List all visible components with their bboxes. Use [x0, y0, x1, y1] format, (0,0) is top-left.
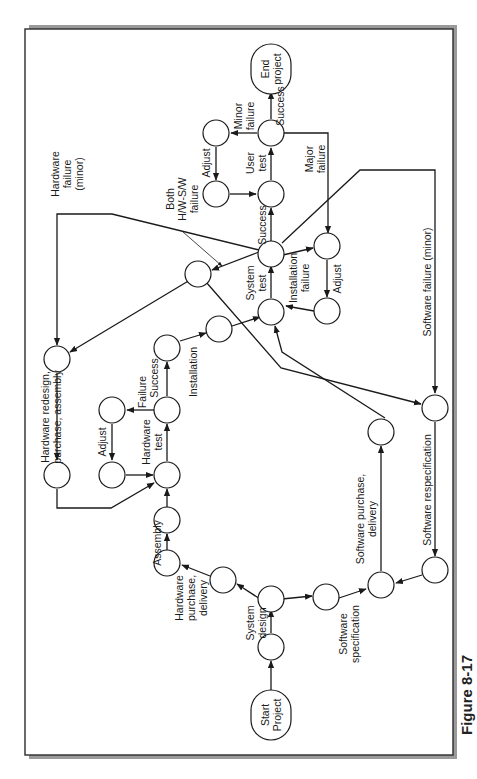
- system-success-label: Success: [256, 205, 268, 245]
- node-hw-test-result: [154, 397, 180, 423]
- network-diagram: StartProject Endproject Systemdesign Har…: [0, 0, 477, 779]
- user-adjust-label: Adjust: [200, 148, 212, 177]
- sw-spec-label: Softwarespecification: [337, 605, 361, 663]
- user-test-label: Usertest: [244, 151, 268, 174]
- installation-label: Installation: [187, 347, 199, 397]
- node-hw-purchase: [210, 567, 236, 593]
- assembly-label: Assembly: [151, 519, 163, 565]
- install-adjust-label: Adjust: [331, 264, 343, 293]
- figure-caption: Figure 8-17: [458, 655, 475, 735]
- node-install-adjust-start: [314, 233, 340, 259]
- node-sw-respec-start: [422, 395, 448, 421]
- node-sw-respec-end: [422, 557, 448, 583]
- user-success-label: Success: [274, 86, 286, 126]
- node-hw-test: [154, 462, 180, 488]
- node-installed: [206, 316, 232, 342]
- hw-failure-label: Failure: [136, 376, 148, 408]
- node-sw-delivered: [368, 419, 394, 445]
- figure-frame: [25, 25, 457, 759]
- node-user-test: [258, 181, 284, 207]
- node-hw-adjust-end: [99, 462, 125, 488]
- sw-failure-minor-label: Software failure (minor): [421, 227, 433, 336]
- hw-success-label: Success: [148, 358, 160, 398]
- hw-adjust-label: Adjust: [96, 427, 108, 456]
- node-hw-adjust-start: [99, 397, 125, 423]
- hw-redesign-label: Hardware redesign,purchase, assembly: [39, 370, 63, 464]
- node-hw-redesign-end: [44, 462, 70, 488]
- node-user-adjust-end: [203, 181, 229, 207]
- figure-8-17: StartProject Endproject Systemdesign Har…: [0, 0, 477, 779]
- node-hw-redesign-start: [44, 346, 70, 372]
- major-failure-label: Majorfailure: [303, 145, 327, 174]
- hw-purchase-label: Hardwarepurchase,delivery: [173, 575, 209, 621]
- node-system-test: [258, 299, 284, 325]
- minor-failure-label: Minorfailure: [232, 102, 256, 131]
- node-both-failure: [185, 261, 211, 287]
- node-user-adjust-start: [203, 120, 229, 146]
- node-sw-purchase: [368, 572, 394, 598]
- node-install-adjust-end: [314, 298, 340, 324]
- node-sw-spec: [313, 584, 339, 610]
- node-hw-success: [154, 335, 180, 361]
- system-design-label: Systemdesign: [244, 605, 268, 640]
- sw-respec-label: Software respecification: [421, 434, 433, 546]
